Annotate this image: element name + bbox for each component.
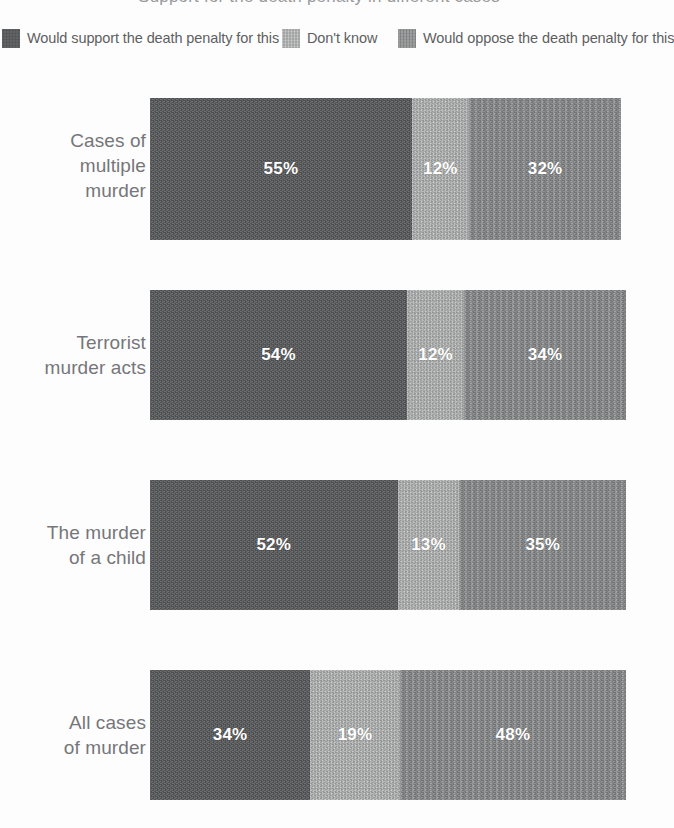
bar-segment[interactable]: 52% bbox=[150, 480, 398, 610]
category-label-terrorist-murder-acts: Terroristmurder acts bbox=[0, 330, 146, 380]
bar-segment[interactable]: 13% bbox=[398, 480, 460, 610]
category-label-line: Terrorist bbox=[0, 330, 146, 355]
category-label-the-murder-of-a-child: The murderof a child bbox=[0, 520, 146, 570]
category-label-line: murder acts bbox=[0, 355, 146, 380]
category-label-line: of a child bbox=[0, 545, 146, 570]
bar-segment[interactable]: 12% bbox=[407, 290, 464, 420]
bar-segment[interactable]: 55% bbox=[150, 98, 412, 240]
category-label-line: multiple bbox=[0, 153, 146, 178]
bar-segment-value: 34% bbox=[213, 725, 248, 745]
bar-segment[interactable]: 34% bbox=[464, 290, 626, 420]
stacked-bar: 54%12%34% bbox=[150, 290, 626, 420]
category-label-line: murder bbox=[0, 178, 146, 203]
stacked-bar: 34%19%48% bbox=[150, 670, 626, 800]
bar-segment-value: 48% bbox=[496, 725, 531, 745]
bar-segment-value: 13% bbox=[411, 535, 446, 555]
bar-segment[interactable]: 34% bbox=[150, 670, 310, 800]
bar-segment-value: 35% bbox=[525, 535, 560, 555]
category-label-cases-of-multiple-murder: Cases ofmultiplemurder bbox=[0, 128, 146, 203]
bar-segment-value: 52% bbox=[256, 535, 291, 555]
bar-segment-value: 19% bbox=[338, 725, 373, 745]
bar-segment[interactable]: 35% bbox=[459, 480, 626, 610]
bar-segment-value: 12% bbox=[418, 345, 453, 365]
bar-segment-value: 55% bbox=[264, 159, 299, 179]
bar-row-cases-of-multiple-murder: Cases ofmultiplemurder55%12%32% bbox=[0, 98, 638, 240]
bar-segment[interactable]: 12% bbox=[412, 98, 469, 240]
stacked-bar: 55%12%32% bbox=[150, 98, 626, 240]
bar-segment[interactable]: 32% bbox=[469, 98, 621, 240]
category-label-line: The murder bbox=[0, 520, 146, 545]
bar-segment-value: 54% bbox=[261, 345, 296, 365]
bar-segment[interactable]: 48% bbox=[400, 670, 626, 800]
bar-segment-value: 32% bbox=[528, 159, 563, 179]
bar-row-all-cases-of-murder: All casesof murder34%19%48% bbox=[0, 670, 638, 800]
category-label-all-cases-of-murder: All casesof murder bbox=[0, 710, 146, 760]
bar-segment-value: 34% bbox=[528, 345, 563, 365]
bar-row-the-murder-of-a-child: The murderof a child52%13%35% bbox=[0, 480, 638, 610]
category-label-line: All cases bbox=[0, 710, 146, 735]
bar-segment[interactable]: 54% bbox=[150, 290, 407, 420]
bar-segment-value: 12% bbox=[423, 159, 458, 179]
category-label-line: Cases of bbox=[0, 128, 146, 153]
bar-row-terrorist-murder-acts: Terroristmurder acts54%12%34% bbox=[0, 290, 638, 420]
category-label-line: of murder bbox=[0, 735, 146, 760]
bar-segment[interactable]: 19% bbox=[310, 670, 400, 800]
stacked-bar: 52%13%35% bbox=[150, 480, 626, 610]
